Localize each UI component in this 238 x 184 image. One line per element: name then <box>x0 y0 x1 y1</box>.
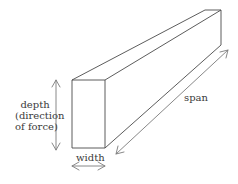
beam-top-face <box>72 10 221 80</box>
beam-front-face <box>72 80 105 148</box>
width-arrow <box>72 162 105 170</box>
width-label: width <box>76 152 105 163</box>
span-arrow <box>116 50 228 154</box>
depth-label: depth (direction of force) <box>15 99 55 132</box>
depth-label-line3: of force) <box>15 121 55 132</box>
depth-label-line2: (direction <box>15 110 55 121</box>
beam-outline <box>72 10 221 148</box>
span-label: span <box>184 92 208 103</box>
beam-side-face <box>105 10 221 148</box>
beam-diagram: depth (direction of force) width span <box>0 0 238 184</box>
depth-label-line1: depth <box>15 99 55 110</box>
